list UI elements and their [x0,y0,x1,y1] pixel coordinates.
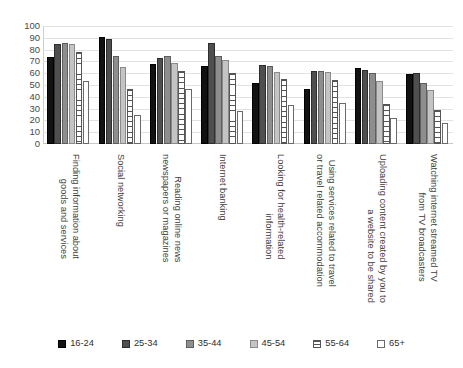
bar [106,39,113,144]
y-axis-tick-label: 0 [10,139,40,149]
category-label-line: a website to be shared [365,154,377,303]
bars-container [43,26,453,144]
y-axis-tick-label: 10 [10,127,40,137]
legend-label: 16-24 [70,339,94,348]
bar [252,83,259,144]
bar [222,60,229,144]
bar [164,56,171,145]
bar [355,68,362,144]
bar-group [146,26,197,144]
category-label-text: Finding information aboutgoods and servi… [57,154,80,259]
bar-group [351,26,402,144]
category-label-line: Finding information about [69,154,81,259]
grouped-bar-chart: 1009080706050403020100 Finding informati… [0,0,463,368]
category-label-text: Using services related to travelor trave… [313,154,336,287]
category-label-text: Reading online newsnewspapers or magazin… [160,154,183,263]
legend-swatch-icon [58,340,66,348]
bar [208,43,215,144]
category-label-line: Reading online news [171,154,183,263]
y-axis-tick-label: 80 [10,45,40,55]
category-label-line: Social networking [114,154,126,227]
bar [442,123,449,144]
category-label-line: goods and services [57,154,69,259]
legend-item[interactable]: 16-24 [58,339,94,348]
bar [54,44,61,144]
bar-group [402,26,453,144]
category-label-line: Watching internet streamed TV [427,154,439,282]
bar [150,64,157,144]
legend-item[interactable]: 65+ [377,339,405,348]
bar [427,90,434,144]
y-axis-tick-label: 40 [10,92,40,102]
category-label-text: Internet banking [217,154,229,221]
bar [369,73,376,144]
bar-group [248,26,299,144]
plot-area: 1009080706050403020100 [0,0,463,150]
x-axis-category-label: Looking for health-relatedinformation [248,150,299,325]
legend-swatch-icon [377,340,385,348]
x-axis-category-label: Reading online newsnewspapers or magazin… [146,150,197,325]
x-axis-category-label: Social networking [94,150,145,325]
legend-item[interactable]: 55-64 [313,339,349,348]
bar [325,72,332,144]
legend-item[interactable]: 25-34 [122,339,158,348]
bar [420,83,427,144]
bar [47,57,54,144]
y-axis-tick-label: 70 [10,57,40,67]
category-label-line: or travel related accommodation [313,154,325,287]
category-label-text: Uploading content created by you toa web… [365,154,388,303]
category-label-text: Watching internet streamed TVfrom TV bro… [416,154,439,282]
bar-group [94,26,145,144]
legend-item[interactable]: 45-54 [250,339,286,348]
legend-label: 25-34 [134,339,158,348]
y-axis-tick-label: 100 [10,21,40,31]
x-axis-category-label: Internet banking [197,150,248,325]
bar [157,58,164,144]
legend-label: 65+ [389,339,405,348]
legend-label: 35-44 [198,339,222,348]
legend: 16-2425-3435-4445-5455-6465+ [0,334,463,354]
bar [99,37,106,144]
bar [318,71,325,144]
y-axis-tick-label: 20 [10,116,40,126]
y-axis-tick-label: 60 [10,68,40,78]
bar [304,89,311,144]
bar [83,81,90,144]
legend-swatch-icon [186,340,194,348]
legend-item[interactable]: 35-44 [186,339,222,348]
bar [267,66,274,144]
bar [383,104,390,144]
category-label-line: Looking for health-related [274,154,286,259]
category-label-line: from TV broadcasters [416,154,428,282]
bar [376,81,383,144]
bar [339,103,346,144]
bar [413,73,420,144]
bar [76,52,83,144]
bar [362,70,369,144]
legend-swatch-icon [250,340,258,348]
x-axis-category-label: Watching internet streamed TVfrom TV bro… [402,150,453,325]
bar [171,63,178,144]
category-label-line: Internet banking [217,154,229,221]
bar [229,73,236,144]
category-label-text: Looking for health-relatedinformation [262,154,285,259]
category-label-text: Social networking [114,154,126,227]
bar-group [197,26,248,144]
bar [127,89,134,144]
bar [434,110,441,144]
legend-swatch-icon [313,340,321,348]
bar [185,89,192,144]
y-axis: 1009080706050403020100 [10,22,40,144]
bar [311,71,318,144]
bar [215,56,222,145]
bar [178,71,185,144]
legend-label: 55-64 [325,339,349,348]
legend-swatch-icon [122,340,130,348]
bar [332,80,339,144]
bar [69,44,76,144]
category-label-line: Uploading content created by you to [376,154,388,303]
bar [134,115,141,145]
x-axis-category-label: Finding information aboutgoods and servi… [43,150,94,325]
legend-label: 45-54 [262,339,286,348]
bar [120,67,127,144]
